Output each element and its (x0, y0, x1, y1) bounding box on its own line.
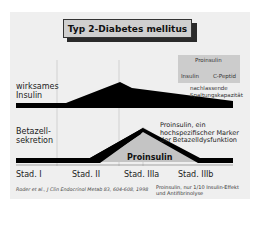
proinsulin-note: Proinsulin, nur 1/10 Insulin-Effekt und … (156, 184, 239, 196)
proinsulin-child-cpeptid: C-Peptid (213, 73, 236, 80)
stage-label: Stad. IIIa (124, 170, 159, 179)
stage-label: Stad. I (16, 170, 42, 179)
proinsulin-child-insulin: Insulin (181, 73, 199, 80)
stage-label: Stad. II (72, 170, 100, 179)
cleavage-caption: nachlassende Spaltungskapazität (190, 85, 243, 98)
citation: Roder et al., J Clin Endocrinol Metab 83… (16, 187, 148, 192)
marker-text: Proinsulin, ein hochspezifischer Marker … (160, 122, 239, 145)
row-label-insulin: wirksames Insulin (16, 82, 59, 100)
proinsulin-area-label: Proinsulin (127, 153, 172, 162)
proinsulin-parent: Proinsulin (195, 57, 222, 64)
stage-label: Stad. IIIb (178, 170, 213, 179)
row-label-betacell: Betazell- sekretion (16, 127, 53, 145)
